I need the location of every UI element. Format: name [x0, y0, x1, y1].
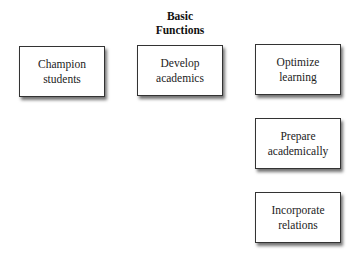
box-label-line2: students: [38, 72, 86, 87]
diagram-title-line1: Basic: [130, 9, 230, 23]
diagram-title-line2: Functions: [130, 23, 230, 37]
box-label-line1: Optimize: [277, 55, 320, 70]
box-incorporate-relations: Incorporate relations: [255, 192, 341, 243]
box-label: Optimize learning: [277, 55, 320, 85]
box-label: Champion students: [38, 57, 86, 87]
box-label-line2: academically: [268, 144, 329, 159]
box-label-line2: learning: [277, 70, 320, 85]
box-prepare-academically: Prepare academically: [255, 118, 341, 169]
box-label-line1: Develop: [156, 56, 204, 71]
box-develop-academics: Develop academics: [137, 45, 223, 96]
box-label-line1: Incorporate: [272, 203, 325, 218]
box-label-line2: relations: [272, 218, 325, 233]
box-label-line1: Champion: [38, 57, 86, 72]
diagram-title: Basic Functions: [130, 9, 230, 37]
box-label-line2: academics: [156, 71, 204, 86]
box-label: Develop academics: [156, 56, 204, 86]
box-label: Incorporate relations: [272, 203, 325, 233]
box-label: Prepare academically: [268, 129, 329, 159]
box-optimize-learning: Optimize learning: [255, 44, 341, 95]
box-label-line1: Prepare: [268, 129, 329, 144]
box-champion-students: Champion students: [19, 46, 105, 97]
